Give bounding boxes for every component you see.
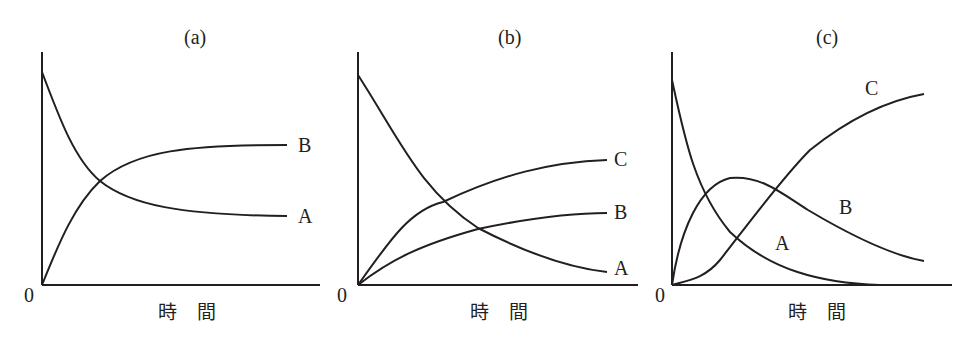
- panel-a-xlabel-char-1: 時: [158, 303, 177, 323]
- panel-c-label-B: B: [839, 197, 852, 217]
- panel-a: [42, 52, 320, 285]
- panel-c: [672, 52, 952, 285]
- panel-c-origin-label: 0: [655, 285, 665, 305]
- panel-c-xlabel-char-2: 間: [827, 303, 846, 323]
- panel-b-curve-A: [358, 75, 607, 272]
- panel-b-x-axis-label: 時間: [470, 303, 528, 323]
- panel-c-curve-A: [672, 80, 952, 285]
- panel-a-xlabel-char-2: 間: [197, 303, 216, 323]
- panel-b-title: (b): [498, 27, 521, 47]
- panel-a-title: (a): [184, 27, 206, 47]
- panel-a-origin-label: 0: [24, 285, 34, 305]
- panel-a-curve-A: [42, 72, 287, 216]
- panel-b-origin-label: 0: [337, 285, 347, 305]
- panel-a-label-B: B: [298, 135, 311, 155]
- panel-a-x-axis-label: 時間: [158, 303, 216, 323]
- charts-canvas: [0, 0, 973, 342]
- panel-b: [358, 52, 638, 285]
- panel-b-label-C: C: [614, 149, 627, 169]
- panel-c-xlabel-char-1: 時: [788, 303, 807, 323]
- panel-a-label-A: A: [298, 206, 312, 226]
- panel-b-xlabel-char-1: 時: [470, 303, 489, 323]
- panel-b-xlabel-char-2: 間: [509, 303, 528, 323]
- panel-c-title: (c): [816, 27, 838, 47]
- panel-c-label-A: A: [775, 233, 789, 253]
- panel-b-curve-B: [358, 213, 607, 285]
- panel-c-label-C: C: [865, 78, 878, 98]
- panel-b-curve-C: [358, 160, 607, 285]
- panel-c-x-axis-label: 時間: [788, 303, 846, 323]
- panel-b-label-B: B: [614, 202, 627, 222]
- panel-b-label-A: A: [614, 258, 628, 278]
